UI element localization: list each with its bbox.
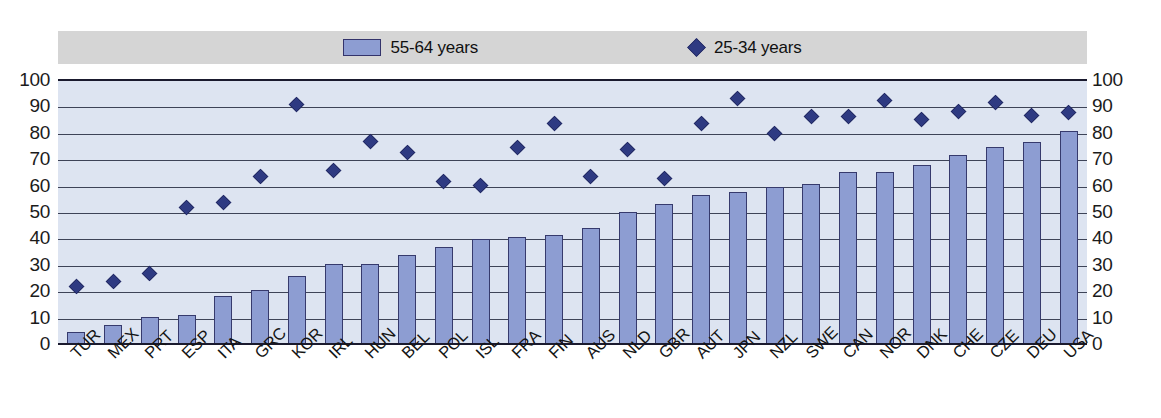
- y-tick-80: 80: [6, 122, 50, 141]
- y-tick-90: 90: [6, 96, 50, 115]
- y-tick-0: 0: [1092, 334, 1136, 353]
- bar-NZL: [766, 187, 784, 345]
- y-tick-60: 60: [1092, 175, 1136, 194]
- legend-entry-bars: 55-64 years: [343, 38, 478, 58]
- bar-DEU: [1023, 142, 1041, 345]
- x-axis-labels: TURMEXPRTESPITAGRCKORIRLHUNBELPOLISLFRAF…: [58, 345, 1087, 418]
- y-tick-0: 0: [6, 334, 50, 353]
- marker-CHE: [951, 104, 967, 120]
- marker-MEX: [105, 274, 121, 290]
- data-column: [793, 81, 830, 345]
- bar-NLD: [619, 212, 637, 345]
- y-tick-20: 20: [1092, 281, 1136, 300]
- data-column: [646, 81, 683, 345]
- data-column: [279, 81, 316, 345]
- bar-NOR: [876, 172, 894, 345]
- bar-AUT: [692, 195, 710, 345]
- y-tick-100: 100: [1092, 70, 1136, 89]
- marker-NLD: [620, 142, 636, 158]
- marker-DEU: [1024, 107, 1040, 123]
- marker-TUR: [69, 279, 85, 295]
- y-tick-30: 30: [1092, 254, 1136, 273]
- legend-label-25-34: 25-34 years: [714, 38, 802, 58]
- data-column: [720, 81, 757, 345]
- plot-area: [58, 79, 1087, 345]
- data-column: [609, 81, 646, 345]
- y-tick-100: 100: [6, 70, 50, 89]
- marker-POL: [436, 173, 452, 189]
- y-tick-30: 30: [6, 254, 50, 273]
- marker-GBR: [657, 171, 673, 187]
- bar-FRA: [508, 237, 526, 345]
- data-column: [95, 81, 132, 345]
- y-axis-left: 1009080706050403020100: [6, 79, 50, 343]
- bar-swatch-icon: [343, 39, 381, 56]
- bar-GBR: [655, 204, 673, 345]
- data-column: [426, 81, 463, 345]
- y-tick-10: 10: [1092, 307, 1136, 326]
- y-axis-right: 1009080706050403020100: [1092, 79, 1136, 343]
- data-column: [683, 81, 720, 345]
- marker-FIN: [546, 115, 562, 131]
- y-tick-60: 60: [6, 175, 50, 194]
- bar-CHE: [949, 155, 967, 345]
- data-series-layer: [58, 81, 1087, 345]
- marker-AUS: [583, 168, 599, 184]
- y-tick-40: 40: [6, 228, 50, 247]
- bar-ISL: [472, 239, 490, 345]
- y-tick-90: 90: [1092, 96, 1136, 115]
- marker-PRT: [142, 266, 158, 282]
- marker-USA: [1061, 105, 1077, 121]
- marker-BEL: [399, 144, 415, 160]
- y-tick-70: 70: [1092, 149, 1136, 168]
- marker-ESP: [179, 200, 195, 216]
- bar-CZE: [986, 147, 1004, 345]
- data-column: [315, 81, 352, 345]
- data-column: [389, 81, 426, 345]
- y-tick-50: 50: [1092, 202, 1136, 221]
- marker-NZL: [767, 126, 783, 142]
- bar-AUS: [582, 228, 600, 345]
- data-column: [1050, 81, 1087, 345]
- marker-AUT: [693, 115, 709, 131]
- diamond-swatch-icon: [687, 38, 706, 57]
- bar-DNK: [913, 165, 931, 345]
- marker-GRC: [252, 168, 268, 184]
- chart-legend: 55-64 years 25-34 years: [58, 31, 1087, 64]
- bar-BEL: [398, 255, 416, 345]
- data-column: [352, 81, 389, 345]
- bar-CAN: [839, 172, 857, 345]
- y-tick-10: 10: [6, 307, 50, 326]
- bar-USA: [1060, 131, 1078, 345]
- marker-CAN: [840, 109, 856, 125]
- marker-JPN: [730, 90, 746, 106]
- data-column: [536, 81, 573, 345]
- marker-SWE: [804, 109, 820, 125]
- data-column: [462, 81, 499, 345]
- chart-container: 55-64 years 25-34 years 1009080706050403…: [0, 0, 1161, 418]
- data-column: [499, 81, 536, 345]
- marker-HUN: [363, 134, 379, 150]
- data-column: [58, 81, 95, 345]
- marker-IRL: [326, 163, 342, 179]
- marker-DNK: [914, 111, 930, 127]
- data-column: [940, 81, 977, 345]
- data-column: [903, 81, 940, 345]
- marker-ITA: [216, 195, 232, 211]
- data-column: [756, 81, 793, 345]
- y-tick-70: 70: [6, 149, 50, 168]
- data-column: [132, 81, 169, 345]
- data-column: [573, 81, 610, 345]
- y-tick-20: 20: [6, 281, 50, 300]
- marker-KOR: [289, 97, 305, 113]
- legend-label-55-64: 55-64 years: [390, 38, 478, 58]
- y-tick-50: 50: [6, 202, 50, 221]
- data-column: [242, 81, 279, 345]
- bar-SWE: [802, 184, 820, 345]
- data-column: [977, 81, 1014, 345]
- legend-entry-markers: 25-34 years: [688, 38, 802, 58]
- marker-ISL: [473, 177, 489, 193]
- bar-FIN: [545, 235, 563, 345]
- marker-NOR: [877, 93, 893, 109]
- bar-JPN: [729, 192, 747, 345]
